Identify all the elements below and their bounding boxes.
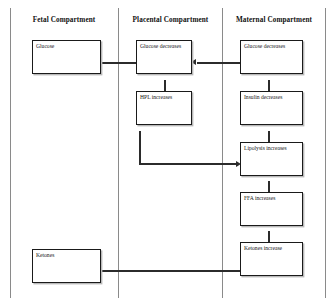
compartment-flow-diagram: Fetal Compartment Placental Compartment …: [0, 0, 332, 307]
node-maternal-ffa-label: FFA increases: [244, 195, 275, 201]
node-maternal-ketones-label: Ketones increase: [244, 245, 282, 251]
node-maternal-ffa-increases[interactable]: FFA increases: [240, 192, 303, 226]
node-fetal-glucose[interactable]: Glucose: [32, 40, 101, 74]
column-header-fetal: Fetal Compartment: [10, 16, 118, 24]
node-maternal-insulin-label: Insulin decreases: [244, 94, 282, 100]
node-maternal-insulin-decreases[interactable]: Insulin decreases: [240, 91, 303, 125]
node-placental-glucose-decreases[interactable]: Glucose decreases: [136, 40, 192, 74]
node-fetal-glucose-label: Glucose: [36, 43, 54, 49]
node-placental-hpl-increases[interactable]: HPL increases: [136, 91, 192, 125]
column-header-maternal: Maternal Compartment: [223, 16, 325, 24]
node-maternal-lipolysis-increases[interactable]: Lipolysis increases: [240, 142, 303, 176]
divider-left-frame: [10, 8, 11, 298]
edge-placental-glucose-to-fetal-glucose: [100, 62, 136, 64]
edge-hpl-to-lipolysis-horizontal: [139, 163, 237, 165]
divider-placental-maternal: [222, 8, 223, 298]
node-fetal-ketones[interactable]: Ketones: [32, 249, 101, 283]
divider-right-frame: [325, 8, 326, 298]
divider-fetal-placental: [118, 8, 119, 298]
edge-hpl-to-lipolysis-vertical: [139, 131, 141, 164]
node-placental-glucose-label: Glucose decreases: [140, 43, 181, 49]
node-maternal-glucose-decreases[interactable]: Glucose decreases: [240, 40, 303, 74]
node-maternal-glucose-label: Glucose decreases: [244, 43, 285, 49]
node-maternal-lipolysis-label: Lipolysis increases: [244, 145, 287, 151]
edge-maternal-glucose-to-placental-glucose: [197, 62, 240, 64]
column-header-placental: Placental Compartment: [119, 16, 222, 24]
node-placental-hpl-label: HPL increases: [140, 94, 172, 100]
node-maternal-ketones-increase[interactable]: Ketones increase: [240, 242, 303, 276]
edge-maternal-ketones-to-fetal-ketones: [101, 270, 241, 272]
node-fetal-ketones-label: Ketones: [36, 252, 54, 258]
